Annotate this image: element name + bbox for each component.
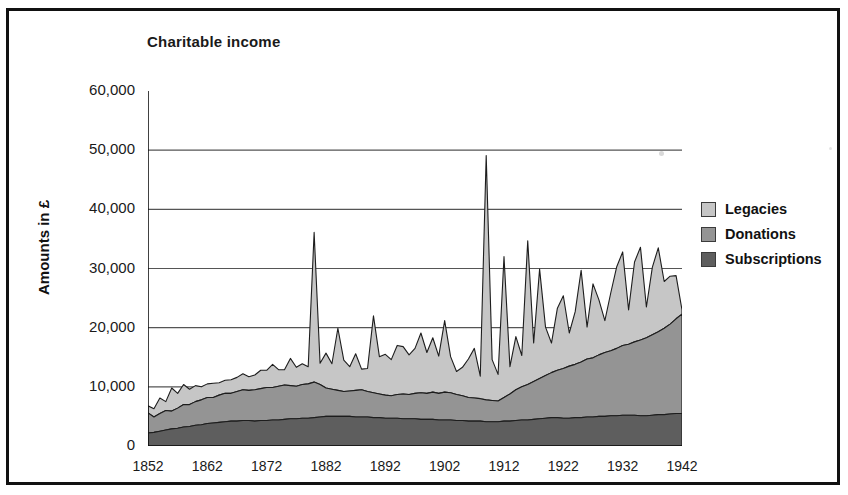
plot-area	[148, 91, 682, 446]
x-tick-label: 1932	[591, 458, 655, 474]
legend-item-legacies[interactable]: Legacies	[701, 201, 822, 217]
y-tick-label: 60,000	[39, 81, 135, 98]
x-tick-label: 1902	[413, 458, 477, 474]
speck-artifact	[659, 151, 664, 156]
legend-swatch-icon	[701, 227, 716, 242]
x-tick-label: 1912	[472, 458, 536, 474]
x-tick-label: 1882	[294, 458, 358, 474]
x-tick-label: 1852	[116, 458, 180, 474]
speck-artifact-2	[829, 147, 832, 150]
stacked-area-chart	[148, 91, 682, 446]
y-tick-label: 20,000	[39, 318, 135, 335]
figure-frame: Charitable income Amounts in £ 010,00020…	[6, 8, 840, 485]
chart-title: Charitable income	[147, 33, 280, 50]
x-tick-label: 1862	[175, 458, 239, 474]
x-tick-label: 1892	[353, 458, 417, 474]
legend-item-subscriptions[interactable]: Subscriptions	[701, 251, 822, 267]
legend-item-donations[interactable]: Donations	[701, 226, 822, 242]
x-tick-label: 1872	[235, 458, 299, 474]
legend-label: Subscriptions	[725, 251, 822, 267]
legend-swatch-icon	[701, 202, 716, 217]
legend-label: Legacies	[725, 201, 787, 217]
x-tick-label: 1942	[650, 458, 714, 474]
y-tick-label: 10,000	[39, 377, 135, 394]
legend-swatch-icon	[701, 252, 716, 267]
y-tick-label: 40,000	[39, 199, 135, 216]
x-tick-label: 1922	[531, 458, 595, 474]
chart-legend: LegaciesDonationsSubscriptions	[701, 201, 822, 276]
y-tick-label: 0	[39, 436, 135, 453]
y-tick-label: 30,000	[39, 259, 135, 276]
y-tick-label: 50,000	[39, 140, 135, 157]
legend-label: Donations	[725, 226, 796, 242]
